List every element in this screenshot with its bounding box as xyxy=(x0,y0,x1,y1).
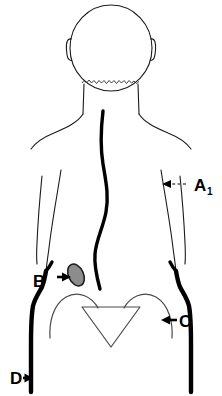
pelvis-right-iliac-crest xyxy=(124,294,172,338)
label-a1-group: A 1 xyxy=(162,176,213,197)
spine-line xyxy=(95,111,107,289)
label-c-group: C xyxy=(161,312,191,331)
left-trunk-outline xyxy=(46,170,61,271)
right-shoulder-outline xyxy=(139,114,191,149)
left-shoulder-outline xyxy=(31,114,83,149)
right-arm-inner-edge xyxy=(180,176,185,264)
label-a1-subscript: 1 xyxy=(207,186,213,197)
label-b-group: B xyxy=(33,272,71,291)
anatomical-figure: A 1 B C D xyxy=(0,0,222,396)
label-c-arrowhead-icon xyxy=(161,316,170,325)
neck-right-edge xyxy=(138,84,139,114)
hairline xyxy=(82,80,139,84)
shaded-oval-marker xyxy=(64,261,87,288)
pelvis-left-iliac-crest xyxy=(50,294,98,338)
right-hip-thigh-outline xyxy=(176,271,191,392)
label-c-text: C xyxy=(179,312,191,331)
label-d-text: D xyxy=(10,369,22,388)
head-outline xyxy=(70,5,152,91)
neck-left-edge xyxy=(83,84,84,114)
label-b-text: B xyxy=(33,272,45,291)
sacrum-triangle xyxy=(82,307,140,347)
figure-canvas: A 1 B C D xyxy=(0,0,222,396)
label-a1-text: A xyxy=(194,176,206,195)
left-arm-inner-edge xyxy=(37,176,42,264)
